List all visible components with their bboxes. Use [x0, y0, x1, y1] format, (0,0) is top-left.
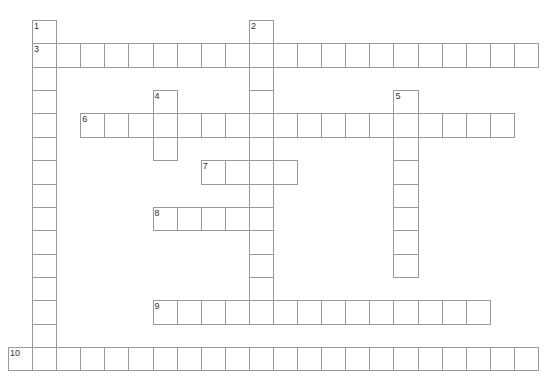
crossword-cell[interactable]	[32, 160, 57, 184]
crossword-cell[interactable]	[249, 137, 274, 161]
crossword-cell[interactable]	[514, 347, 539, 371]
crossword-cell[interactable]	[249, 300, 274, 324]
crossword-cell[interactable]	[393, 230, 418, 254]
crossword-cell[interactable]	[32, 277, 57, 301]
crossword-cell[interactable]	[153, 347, 178, 371]
crossword-cell[interactable]: 1	[32, 20, 57, 44]
crossword-cell[interactable]	[393, 113, 418, 137]
crossword-cell[interactable]: 6	[80, 113, 105, 137]
crossword-cell[interactable]: 7	[201, 160, 226, 184]
crossword-cell[interactable]	[273, 300, 298, 324]
crossword-cell[interactable]	[225, 160, 250, 184]
crossword-cell[interactable]	[128, 113, 153, 137]
crossword-cell[interactable]	[369, 43, 394, 67]
crossword-cell[interactable]: 10	[8, 347, 33, 371]
crossword-cell[interactable]	[297, 347, 322, 371]
crossword-cell[interactable]	[369, 300, 394, 324]
crossword-cell[interactable]	[466, 347, 491, 371]
crossword-cell[interactable]	[369, 347, 394, 371]
crossword-cell[interactable]	[249, 160, 274, 184]
crossword-cell[interactable]: 3	[32, 43, 57, 67]
crossword-cell[interactable]	[321, 347, 346, 371]
crossword-cell[interactable]	[249, 230, 274, 254]
crossword-cell[interactable]	[225, 347, 250, 371]
crossword-cell[interactable]	[153, 137, 178, 161]
crossword-cell[interactable]	[32, 230, 57, 254]
crossword-cell[interactable]	[321, 113, 346, 137]
crossword-cell[interactable]	[273, 347, 298, 371]
crossword-cell[interactable]	[249, 113, 274, 137]
crossword-cell[interactable]	[466, 113, 491, 137]
crossword-cell[interactable]	[128, 347, 153, 371]
crossword-cell[interactable]	[442, 43, 467, 67]
crossword-cell[interactable]	[201, 300, 226, 324]
crossword-cell[interactable]	[273, 160, 298, 184]
crossword-cell[interactable]	[345, 113, 370, 137]
crossword-cell[interactable]	[442, 347, 467, 371]
crossword-cell[interactable]	[418, 347, 443, 371]
crossword-cell[interactable]	[393, 184, 418, 208]
crossword-cell[interactable]	[393, 300, 418, 324]
crossword-cell[interactable]	[201, 347, 226, 371]
crossword-cell[interactable]: 9	[153, 300, 178, 324]
crossword-cell[interactable]	[177, 207, 202, 231]
crossword-cell[interactable]	[249, 207, 274, 231]
crossword-cell[interactable]	[104, 43, 129, 67]
crossword-cell[interactable]	[249, 254, 274, 278]
crossword-cell[interactable]	[466, 43, 491, 67]
crossword-cell[interactable]	[466, 300, 491, 324]
crossword-cell[interactable]	[177, 300, 202, 324]
crossword-cell[interactable]	[80, 43, 105, 67]
crossword-cell[interactable]	[418, 300, 443, 324]
crossword-cell[interactable]	[32, 67, 57, 91]
crossword-cell[interactable]	[80, 347, 105, 371]
crossword-cell[interactable]	[225, 113, 250, 137]
crossword-cell[interactable]	[297, 300, 322, 324]
crossword-cell[interactable]	[514, 43, 539, 67]
crossword-cell[interactable]	[32, 90, 57, 114]
crossword-cell[interactable]	[442, 300, 467, 324]
crossword-cell[interactable]	[345, 347, 370, 371]
crossword-cell[interactable]: 8	[153, 207, 178, 231]
crossword-cell[interactable]	[393, 254, 418, 278]
crossword-cell[interactable]	[393, 43, 418, 67]
crossword-cell[interactable]	[153, 43, 178, 67]
crossword-cell[interactable]	[32, 254, 57, 278]
crossword-cell[interactable]	[249, 67, 274, 91]
crossword-cell[interactable]	[345, 43, 370, 67]
crossword-cell[interactable]	[393, 137, 418, 161]
crossword-cell[interactable]	[418, 113, 443, 137]
crossword-cell[interactable]	[442, 113, 467, 137]
crossword-cell[interactable]	[104, 347, 129, 371]
crossword-cell[interactable]	[32, 113, 57, 137]
crossword-cell[interactable]	[249, 347, 274, 371]
crossword-cell[interactable]	[490, 347, 515, 371]
crossword-cell[interactable]	[297, 43, 322, 67]
crossword-cell[interactable]	[249, 277, 274, 301]
crossword-cell[interactable]	[201, 43, 226, 67]
crossword-cell[interactable]	[56, 347, 81, 371]
crossword-cell[interactable]	[369, 113, 394, 137]
crossword-cell[interactable]	[201, 207, 226, 231]
crossword-cell[interactable]	[490, 43, 515, 67]
crossword-cell[interactable]	[249, 90, 274, 114]
crossword-cell[interactable]	[225, 43, 250, 67]
crossword-cell[interactable]	[177, 347, 202, 371]
crossword-cell[interactable]	[393, 207, 418, 231]
crossword-cell[interactable]	[201, 113, 226, 137]
crossword-cell[interactable]	[56, 43, 81, 67]
crossword-cell[interactable]	[297, 113, 322, 137]
crossword-cell[interactable]	[153, 113, 178, 137]
crossword-cell[interactable]	[393, 160, 418, 184]
crossword-cell[interactable]	[321, 43, 346, 67]
crossword-cell[interactable]: 2	[249, 20, 274, 44]
crossword-cell[interactable]	[32, 300, 57, 324]
crossword-cell[interactable]	[32, 137, 57, 161]
crossword-cell[interactable]: 5	[393, 90, 418, 114]
crossword-cell[interactable]	[249, 184, 274, 208]
crossword-cell[interactable]	[128, 43, 153, 67]
crossword-cell[interactable]	[32, 184, 57, 208]
crossword-cell[interactable]	[490, 113, 515, 137]
crossword-cell[interactable]	[177, 43, 202, 67]
crossword-cell[interactable]	[104, 113, 129, 137]
